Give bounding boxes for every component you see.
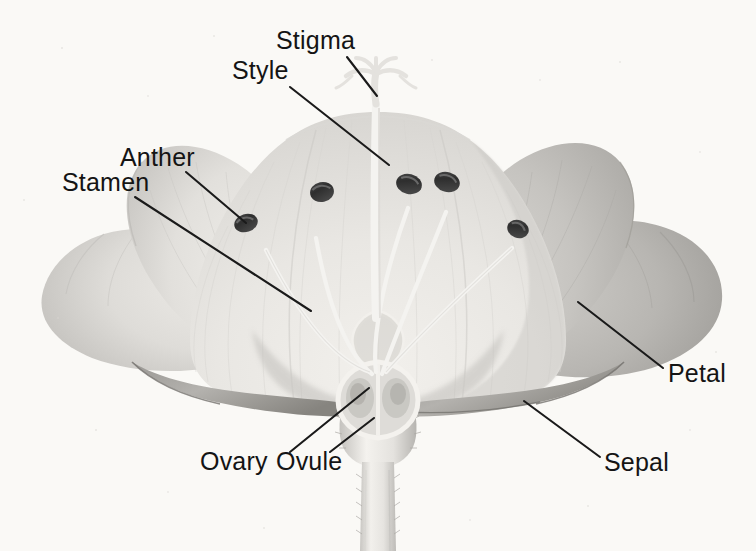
- label-ovule: Ovule: [276, 447, 342, 475]
- flower-diagram-canvas: Stigma Style Anther Stamen Petal Sepal O…: [0, 0, 756, 551]
- label-stigma: Stigma: [276, 26, 355, 54]
- flower-anatomy-figure: Stigma Style Anther Stamen Petal Sepal O…: [0, 0, 756, 551]
- label-sepal: Sepal: [604, 448, 669, 476]
- label-style: Style: [232, 56, 289, 84]
- label-ovary: Ovary: [200, 447, 268, 475]
- label-stamen: Stamen: [62, 168, 149, 196]
- label-petal: Petal: [668, 359, 726, 387]
- style-column: [375, 104, 381, 318]
- label-anther: Anther: [120, 143, 195, 171]
